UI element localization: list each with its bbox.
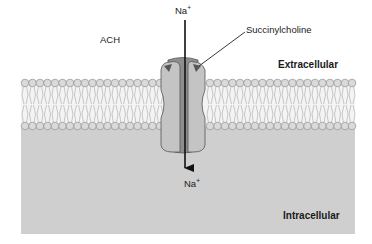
sodium-ion-top-label: Na+ — [175, 5, 191, 16]
sodium-ion-bottom-base: Na — [184, 178, 196, 189]
sodium-ion-top-charge: + — [187, 4, 191, 11]
ach-label: ACH — [100, 34, 120, 45]
intracellular-label: Intracellular — [283, 210, 340, 221]
channel-subunit-left — [161, 62, 180, 153]
extracellular-label: Extracellular — [278, 59, 338, 70]
membrane-diagram: ACH Na+ Succinylcholine Extracellular Na… — [0, 0, 372, 244]
channel-subunit-right — [188, 62, 205, 153]
succinylcholine-pointer — [199, 32, 245, 66]
sodium-ion-bottom-label: Na+ — [184, 178, 200, 189]
succinylcholine-label: Succinylcholine — [246, 24, 311, 35]
acetylcholine-receptor-channel — [161, 58, 205, 154]
sodium-ion-top-base: Na — [175, 5, 187, 16]
sodium-ion-bottom-charge: + — [196, 177, 200, 184]
diagram-canvas — [0, 0, 372, 244]
